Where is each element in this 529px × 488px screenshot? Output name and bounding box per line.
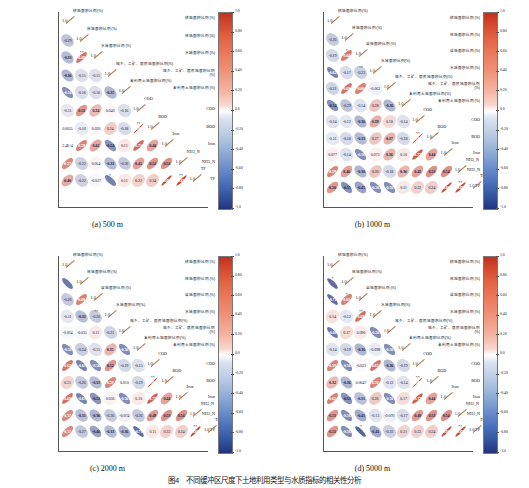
- colorbar-tick-label: -0.60: [235, 410, 243, 414]
- colorbar-tick-label: -0.80: [235, 186, 243, 190]
- colorbar-tick-label: 0.40: [500, 312, 507, 316]
- correlation-cell: -0.26**: [87, 308, 104, 325]
- colorbar-tick-label: 0.20: [500, 88, 507, 92]
- correlation-cell: 0.87**: [173, 172, 190, 189]
- correlation-value: -0.19: [395, 357, 412, 374]
- diagonal-label: Iron: [172, 131, 179, 136]
- diagonal-label: Iron: [452, 384, 459, 389]
- diagonal-label: 水域面积比例(%): [116, 302, 146, 307]
- correlation-value: -0.063: [367, 80, 384, 97]
- panel-caption: (c) 2000 m: [0, 464, 215, 473]
- diagonal-label: 耕地面积比例(%): [73, 252, 103, 257]
- row-label: 未利用土地面积比例(%): [424, 343, 480, 347]
- colorbar-tick-label: -0.80: [500, 186, 508, 190]
- correlation-cell: 0.99**: [409, 374, 426, 391]
- diagonal-label: 城乡、工矿、居民地面积比例(%): [116, 61, 174, 66]
- diagonal-label: 未利用土地面积比例(%): [409, 335, 451, 340]
- diagonal-label: NH3_N: [187, 149, 200, 154]
- significance-marker: **: [416, 375, 420, 380]
- correlation-cell: -0.26: [324, 31, 341, 48]
- significance-marker: **: [94, 309, 98, 314]
- colorbar-tick-label: -0.20: [500, 127, 508, 131]
- colorbar-tick-label: -0.20: [500, 371, 508, 375]
- colorbar-ticks: 1.00.800.600.400.200.0-0.20-0.40-0.60-0.…: [496, 256, 527, 452]
- colorbar-tick-label: 0.0: [500, 107, 505, 111]
- correlation-cell: -0.56: [367, 324, 384, 341]
- figure-caption: 图4 不同缓冲区尺度下土地利用类型与水质指标的相关性分析: [0, 474, 529, 488]
- colorbar-tick-label: -1.0: [500, 449, 506, 453]
- colorbar-ticks: 1.00.800.600.400.200.0-0.20-0.40-0.60-0.…: [496, 12, 527, 208]
- correlation-value: -0.56: [367, 324, 384, 341]
- correlation-cell: 0.54: [173, 407, 190, 424]
- colorbar-ticks: 1.00.800.600.400.200.0-0.20-0.40-0.60-0.…: [231, 256, 262, 452]
- colorbar-tick-label: 0.60: [500, 49, 507, 53]
- diagonal-label: COD: [158, 351, 167, 356]
- colorbar-tick-label: -0.80: [235, 430, 243, 434]
- correlation-cell: 0.69**: [73, 49, 90, 66]
- colorbar-tick-label: 0.20: [235, 88, 242, 92]
- colorbar-tick-label: 0.60: [235, 49, 242, 53]
- correlation-value: 0.44: [423, 146, 440, 163]
- diagonal-cell: 1.0: [324, 258, 341, 275]
- diagonal-label: 城乡、工矿、居民地面积比例(%): [395, 74, 453, 79]
- correlation-cell: -0.56: [116, 341, 133, 358]
- colorbar-tick-label: 0.40: [235, 312, 242, 316]
- colorbar-tick-label: 0.40: [500, 68, 507, 72]
- correlation-matrix: 耕地面积比例(%)耕地面积比例(%)1.0林地面积比例(%)林地面积比例(%)1…: [265, 4, 480, 216]
- correlation-value: -0.26: [324, 31, 341, 48]
- colorbar-tick-label: 0.40: [235, 68, 242, 72]
- significance-marker: **: [359, 65, 363, 70]
- row-label: 耕地面积比例(%): [159, 16, 215, 20]
- diagonal-label: 水域面积比例(%): [381, 58, 411, 63]
- panel-5000m: 耕地面积比例(%)耕地面积比例(%)1.0林地面积比例(%)林地面积比例(%)1…: [265, 244, 529, 488]
- diagonal-cell: 1.0: [324, 14, 341, 31]
- diagonal-label: 耕地面积比例(%): [338, 8, 368, 13]
- correlation-value: 0.44: [423, 390, 440, 407]
- correlation-value: 0.54: [438, 407, 455, 424]
- row-label: BOD: [159, 125, 215, 130]
- diagonal-label: 未利用土地面积比例(%): [144, 335, 186, 340]
- colorbar-tick-label: 1.0: [500, 253, 505, 257]
- diagonal-cell: 1.0: [59, 14, 76, 31]
- diagonal-label: 城乡、工矿、居民地面积比例(%): [130, 318, 188, 323]
- correlation-cell: 0.54: [158, 155, 175, 172]
- correlation-matrix: 耕地面积比例(%)耕地面积比例(%)1.0林地面积比例(%)林地面积比例(%)1…: [265, 248, 480, 460]
- colorbar-tick-label: 0.20: [500, 332, 507, 336]
- correlation-cell: 0.99**: [144, 374, 161, 391]
- correlation-value: -0.14: [395, 113, 412, 130]
- diagonal-label: 林地面积比例(%): [352, 269, 382, 274]
- row-label: 草地面积比例(%): [424, 49, 480, 53]
- correlation-value: 0.44: [158, 390, 175, 407]
- correlation-cell: 0.60: [73, 291, 90, 308]
- row-label: 未利用土地面积比例(%): [159, 86, 215, 90]
- colorbar-tick-label: 0.60: [500, 293, 507, 297]
- colorbar-tick-label: -0.60: [500, 166, 508, 170]
- correlation-cell: 0.54: [438, 407, 455, 424]
- diagonal-label: BOD: [172, 368, 181, 373]
- significance-marker: **: [359, 309, 363, 314]
- diagonal-label: 林地面积比例(%): [87, 26, 117, 31]
- panel-2000m: 耕地面积比例(%)耕地面积比例(%)1.0林地面积比例(%)林地面积比例(%)1…: [0, 244, 264, 488]
- correlation-cell: 0.87**: [452, 179, 469, 196]
- axis-horizontal: [58, 451, 208, 452]
- correlation-cell: 0.54: [438, 163, 455, 180]
- diagonal-label: COD: [423, 351, 432, 356]
- diagonal-label: 城乡、工矿、居民地面积比例(%): [395, 318, 453, 323]
- row-label: 林地面积比例(%): [424, 277, 480, 281]
- diagonal-label: BOD: [437, 124, 446, 129]
- correlation-cell: -0.15: [87, 67, 104, 84]
- diagonal-label: Iron: [187, 384, 194, 389]
- axis-horizontal: [323, 207, 473, 208]
- correlation-cell: -0.35: [102, 84, 119, 101]
- correlation-cell: 0.44: [158, 390, 175, 407]
- significance-marker: *: [332, 276, 334, 281]
- correlation-cell: 0.44: [144, 137, 161, 154]
- correlation-cell: -0.063: [367, 80, 384, 97]
- correlation-cell: 0.89**: [187, 423, 204, 440]
- significance-marker: **: [151, 375, 155, 380]
- diagonal-label: 耕地面积比例(%): [338, 252, 368, 257]
- axis-horizontal: [323, 451, 473, 452]
- correlation-cell: -0.16: [116, 102, 133, 119]
- significance-marker: **: [137, 121, 141, 126]
- colorbar-tick-label: -0.60: [500, 410, 508, 414]
